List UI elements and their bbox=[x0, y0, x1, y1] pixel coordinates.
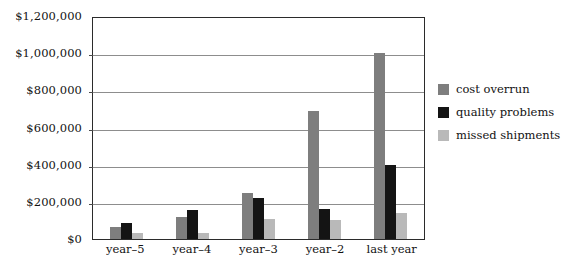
bar bbox=[121, 223, 132, 239]
bar-chart: $0$200,000$400,000$600,000$800,000$1,000… bbox=[0, 0, 572, 274]
bar-group bbox=[358, 18, 424, 239]
bar bbox=[242, 193, 253, 239]
y-axis-tick-label: $400,000 bbox=[26, 160, 82, 172]
y-axis-tick-label: $600,000 bbox=[26, 123, 82, 135]
bar bbox=[385, 165, 396, 239]
bar bbox=[319, 209, 330, 239]
x-axis-tick-label: year–5 bbox=[92, 243, 159, 256]
y-axis-tick-label: $1,000,000 bbox=[15, 48, 82, 60]
x-axis-tick-label: last year bbox=[358, 243, 425, 256]
legend-swatch-icon bbox=[438, 84, 449, 95]
bar bbox=[264, 219, 275, 239]
y-axis-tick-label: $1,200,000 bbox=[15, 11, 82, 23]
x-axis-tick-label: year–2 bbox=[292, 243, 359, 256]
x-axis-tick-label: year–3 bbox=[225, 243, 292, 256]
legend-swatch-icon bbox=[438, 107, 449, 118]
plot-area bbox=[92, 17, 425, 240]
y-axis-tick-label: $800,000 bbox=[26, 85, 82, 97]
bar bbox=[110, 227, 121, 239]
bar-group bbox=[159, 18, 225, 239]
bar bbox=[198, 233, 209, 240]
bar bbox=[176, 217, 187, 239]
bar-group bbox=[292, 18, 358, 239]
x-axis: year–5year–4year–3year–2last year bbox=[92, 243, 425, 256]
legend-label: cost overrun bbox=[456, 83, 530, 95]
legend-label: missed shipments bbox=[456, 129, 560, 141]
y-axis-tick-label: $200,000 bbox=[26, 197, 82, 209]
bar bbox=[396, 213, 407, 239]
legend: cost overrunquality problemsmissed shipm… bbox=[438, 83, 560, 141]
legend-item: cost overrun bbox=[438, 83, 560, 95]
bar-groups bbox=[93, 18, 424, 239]
bar bbox=[253, 198, 264, 239]
legend-item: missed shipments bbox=[438, 129, 560, 141]
bar bbox=[374, 53, 385, 239]
legend-swatch-icon bbox=[438, 130, 449, 141]
bar bbox=[308, 111, 319, 239]
bar-group bbox=[93, 18, 159, 239]
x-axis-tick-label: year–4 bbox=[159, 243, 226, 256]
bar bbox=[132, 233, 143, 240]
bar bbox=[187, 210, 198, 239]
legend-item: quality problems bbox=[438, 106, 560, 118]
bar bbox=[330, 220, 341, 240]
y-axis: $0$200,000$400,000$600,000$800,000$1,000… bbox=[0, 0, 88, 274]
bar-group bbox=[225, 18, 291, 239]
y-axis-tick-label: $0 bbox=[67, 234, 82, 246]
legend-label: quality problems bbox=[456, 106, 554, 118]
